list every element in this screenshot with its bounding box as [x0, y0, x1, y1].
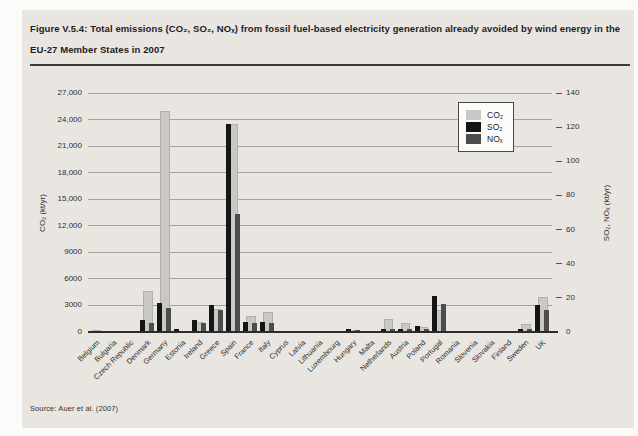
gridline — [88, 252, 552, 253]
legend-item: SO₂ — [466, 122, 503, 132]
y-axis-tick-label: 27,000 — [26, 88, 82, 97]
legend-swatch-co2 — [466, 110, 481, 120]
legend-item: CO₂ — [466, 110, 503, 120]
legend-swatch-so2 — [466, 122, 481, 132]
legend: CO₂SO₂NOₓ — [458, 102, 514, 152]
y-axis-tick-label: 3000 — [26, 300, 82, 309]
source-note: Source: Auer et al. (2007) — [30, 404, 118, 413]
y2-axis-tick-label: 120 — [566, 122, 579, 131]
right-tick-dash — [556, 263, 562, 264]
bar-so2 — [157, 303, 162, 332]
legend-label-so2: SO₂ — [487, 122, 503, 132]
y-axis-tick-label: 12,000 — [26, 221, 82, 230]
bar-so2 — [209, 305, 214, 332]
y2-axis-tick-label: 0 — [566, 327, 570, 336]
bar-so2 — [432, 296, 437, 332]
y2-axis-title: SO₂, NOₓ (kt/yr) — [602, 185, 611, 241]
y-axis-tick-label: 21,000 — [26, 141, 82, 150]
y-axis-tick-label: 0 — [26, 327, 82, 336]
bar-so2 — [535, 305, 540, 332]
gridline — [88, 225, 552, 226]
legend-item: NOₓ — [466, 134, 503, 144]
y-axis-tick-label: 6000 — [26, 274, 82, 283]
legend-label-co2: CO₂ — [487, 110, 503, 120]
y2-axis-tick-label: 80 — [566, 190, 575, 199]
bar-co2 — [160, 111, 170, 332]
y2-axis-tick-label: 60 — [566, 225, 575, 234]
y2-axis-tick-label: 100 — [566, 156, 579, 165]
y-axis-tick-label: 15,000 — [26, 194, 82, 203]
gridline — [88, 199, 552, 200]
gridline — [88, 93, 552, 94]
gridline — [88, 278, 552, 279]
y-axis-tick-label: 9000 — [26, 247, 82, 256]
figure-panel: Figure V.5.4: Total emissions (CO₂, SO₂,… — [22, 10, 634, 428]
right-tick-dash — [556, 297, 562, 298]
legend-label-nox: NOₓ — [487, 134, 503, 144]
right-tick-dash — [556, 127, 562, 128]
y2-axis-tick-label: 140 — [566, 88, 579, 97]
chart-area: CO₂ (kt/yr) SO₂, NOₓ (kt/yr) 03000600090… — [22, 10, 634, 428]
y-axis-tick-label: 18,000 — [26, 168, 82, 177]
bar-nox — [544, 310, 549, 332]
y2-axis-tick-label: 40 — [566, 259, 575, 268]
gridline — [88, 172, 552, 173]
right-tick-dash — [556, 195, 562, 196]
y2-axis-tick-label: 20 — [566, 293, 575, 302]
bar-so2 — [226, 124, 231, 332]
bar-nox — [235, 214, 240, 332]
bar-nox — [218, 310, 223, 332]
right-tick-dash — [556, 93, 562, 94]
right-tick-dash — [556, 229, 562, 230]
legend-swatch-nox — [466, 134, 481, 144]
bar-nox — [441, 304, 446, 332]
x-axis-line — [88, 331, 558, 333]
y-axis-tick-label: 24,000 — [26, 115, 82, 124]
right-tick-dash — [556, 161, 562, 162]
bar-nox — [166, 308, 171, 332]
